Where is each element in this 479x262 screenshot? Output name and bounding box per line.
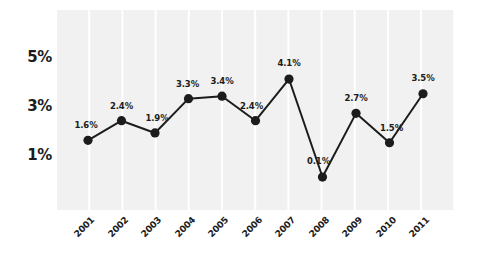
data-point-value-label: 1.5%: [380, 123, 403, 133]
data-point-marker: [184, 94, 193, 103]
series-markers: [83, 74, 427, 181]
data-point-marker: [418, 89, 427, 98]
line-chart: 5%3%1% 1.6%2.4%1.9%3.3%3.4%2.4%4.1%0.1%2…: [0, 0, 479, 262]
data-point-value-label: 1.9%: [145, 113, 168, 123]
data-point-value-label: 1.6%: [74, 120, 97, 130]
data-point-value-label: 2.4%: [110, 101, 133, 111]
data-point-marker: [318, 172, 327, 181]
data-point-value-label: 3.4%: [210, 76, 233, 86]
y-axis-tick-label: 5%: [6, 48, 52, 66]
data-point-marker: [117, 116, 126, 125]
data-point-value-label: 2.4%: [240, 101, 263, 111]
data-point-value-label: 0.1%: [307, 156, 330, 166]
y-axis-tick-label: 1%: [6, 146, 52, 164]
data-point-marker: [284, 74, 293, 83]
data-point-marker: [150, 128, 159, 137]
data-point-value-label: 2.7%: [344, 93, 367, 103]
plot-series-layer: [0, 0, 479, 262]
data-point-value-label: 3.5%: [411, 73, 434, 83]
data-point-marker: [385, 138, 394, 147]
data-point-marker: [251, 116, 260, 125]
series-line: [88, 79, 423, 177]
data-point-value-label: 3.3%: [176, 79, 199, 89]
data-point-marker: [217, 92, 226, 101]
data-point-marker: [83, 136, 92, 145]
data-point-marker: [351, 109, 360, 118]
y-axis-tick-label: 3%: [6, 97, 52, 115]
data-point-value-label: 4.1%: [277, 58, 300, 68]
